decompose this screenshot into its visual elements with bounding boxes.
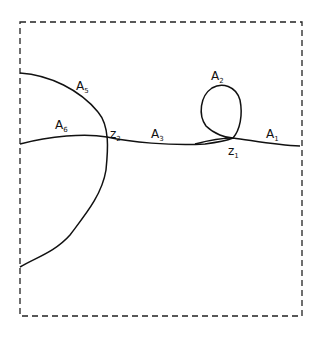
label-z1: z1 — [228, 145, 239, 160]
label-z2: z2 — [110, 128, 121, 143]
label-A5: A5 — [76, 80, 89, 95]
label-A6: A6 — [55, 119, 68, 134]
dashed-frame — [20, 22, 302, 316]
label-A1: A1 — [266, 128, 279, 143]
diagram-canvas — [0, 0, 319, 339]
loop-A2 — [195, 85, 241, 144]
label-A3: A3 — [151, 128, 164, 143]
curve-A5-A4 — [20, 73, 108, 267]
label-A2: A2 — [211, 70, 224, 85]
